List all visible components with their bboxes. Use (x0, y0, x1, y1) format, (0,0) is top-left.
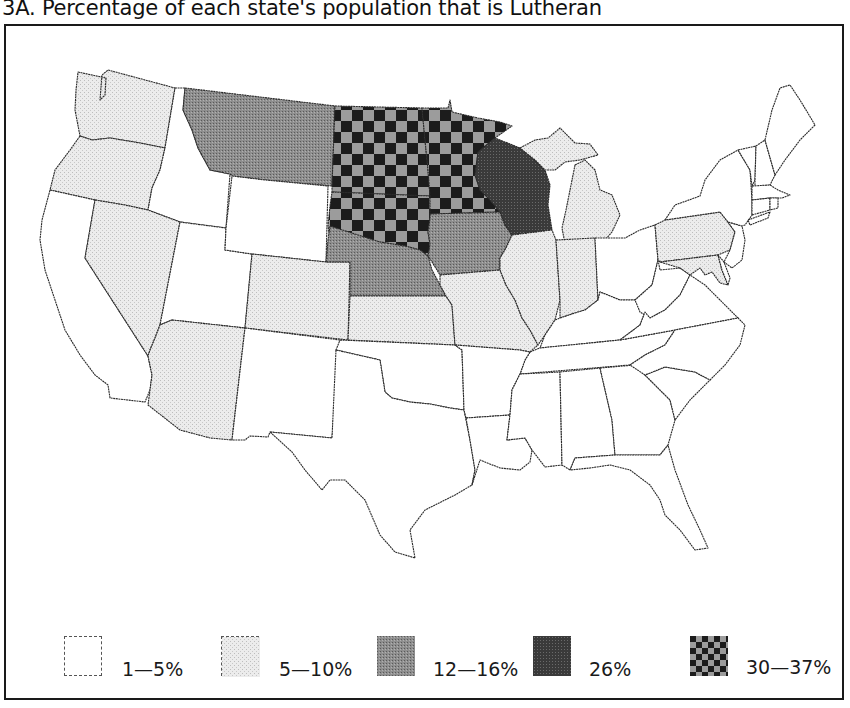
state-rhode-island (770, 198, 778, 210)
state-colorado (245, 254, 350, 340)
legend-label: 12—16% (433, 658, 518, 680)
state-new-mexico (232, 328, 340, 440)
state-iowa (428, 212, 512, 275)
state-connecticut (752, 198, 770, 215)
state-michigan-lower (562, 160, 620, 244)
swatch-dark-gray-icon (533, 636, 571, 676)
swatch-medium-gray-icon (377, 636, 415, 676)
state-north-dakota (332, 106, 430, 196)
swatch-stipple-icon (221, 636, 259, 676)
legend-label: 30—37% (746, 656, 831, 678)
state-maine (765, 85, 815, 175)
swatch-white-icon (64, 636, 102, 676)
state-kansas (348, 296, 455, 345)
state-arizona (148, 320, 245, 440)
state-washington (75, 70, 175, 148)
legend-label: 26% (589, 658, 631, 680)
legend-label: 5—10% (279, 658, 352, 680)
us-choropleth-map (0, 0, 850, 708)
state-florida (570, 445, 708, 550)
swatch-checkerboard-icon (690, 636, 728, 676)
state-wyoming (225, 176, 328, 262)
legend-label: 1—5% (122, 658, 183, 680)
